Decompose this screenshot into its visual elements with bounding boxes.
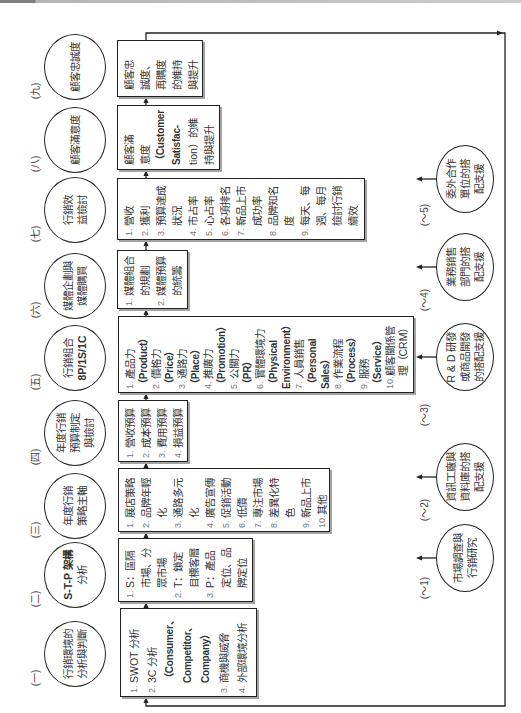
- circle-line: 行銷組合: [61, 338, 75, 378]
- step-9-marker: (九): [29, 80, 43, 102]
- item-text-line: 促銷活動: [218, 478, 234, 518]
- item-number: 4.: [202, 518, 218, 528]
- support-2-circle: 資訊工廠與 資料庫的搭 配支援: [436, 443, 494, 511]
- item-number: 2.: [138, 448, 154, 458]
- circle-line: 行銷研究: [465, 538, 479, 578]
- box-item: 1. 營收: [121, 180, 137, 236]
- arrowhead-icon: [416, 556, 422, 561]
- item-number: 3.: [153, 226, 169, 236]
- item-number: 4.: [233, 683, 251, 693]
- item-text-line: T：鎖定: [170, 548, 186, 588]
- box-item: 8. 作業流程 （Process）: [332, 318, 358, 389]
- item-text-line: SWOT 分析: [125, 629, 143, 683]
- item-text-line: （Service）: [371, 335, 384, 389]
- item-text: 新品上市: [298, 478, 314, 518]
- step-6-box: 1. 媒體組合 的規劃 2. 媒體預算 的統籌: [117, 250, 188, 309]
- item-number: 4.: [185, 226, 201, 236]
- step-7-circle: 行銷效 益檢討: [44, 177, 106, 243]
- circle-line: 市場調查與: [451, 533, 465, 583]
- box-item: 5. 心占率: [201, 180, 217, 236]
- item-text: 費用預算: [154, 408, 170, 448]
- item-number: 3.: [170, 518, 186, 528]
- item-text-line: 每天、每: [297, 186, 313, 226]
- box-text-line: 再購度: [153, 42, 169, 90]
- item-text: SWOT 分析: [125, 629, 143, 683]
- step-2-circle: S-T-P 架構 分析: [44, 542, 106, 608]
- item-text-line: （PR）: [241, 349, 254, 389]
- step-1-marker: (一): [29, 667, 43, 689]
- item-text-line: 實體環境力: [254, 320, 267, 379]
- box-item: 10. 其他: [314, 470, 330, 528]
- box-item: 3. P：產品 定位、品 牌定位: [202, 540, 250, 598]
- item-text-line: 產品力: [124, 333, 137, 379]
- box-item: 8. 品牌知名 度: [265, 180, 297, 236]
- box-text-line: 意度: [137, 107, 153, 165]
- item-text-line: （Consumer、: [161, 616, 179, 683]
- step-1-circle: 行銷環境的 分析與判斷: [44, 621, 106, 687]
- item-text: 品牌知名 度: [265, 186, 297, 226]
- box-item: 7. 人員銷售 （Personal Sales）: [293, 318, 332, 389]
- box-item: 4. 廣告宣傳: [202, 470, 218, 528]
- support-2-marker: (～2): [418, 495, 432, 525]
- item-text-line: 新品上市: [233, 186, 249, 226]
- item-text: 展店策略: [122, 478, 138, 518]
- item-number: 8.: [265, 226, 281, 236]
- item-text-line: （Price）: [163, 346, 176, 389]
- circle-line: 分析: [75, 565, 89, 585]
- box-item: 1. S：區隔 市場、分 眾市場: [122, 540, 170, 598]
- item-text-line: 廣告宣傳: [202, 478, 218, 518]
- item-text-line: 成本預算: [138, 408, 154, 448]
- item-text-line: 媒體組合: [121, 256, 137, 296]
- item-text-line: Competitor、: [179, 616, 197, 683]
- circle-line: 行銷效: [61, 195, 75, 225]
- arrowhead-icon: [416, 355, 422, 360]
- item-text-line: 差異化特: [266, 478, 282, 518]
- item-text-line: 人員銷售: [293, 339, 306, 379]
- arrowhead-icon: [416, 265, 422, 270]
- item-number: 5.: [228, 379, 241, 389]
- item-text-line: 商機與威脅: [215, 633, 233, 683]
- item-text-line: 週、每月: [313, 186, 329, 226]
- item-text-line: 牌定位: [234, 548, 250, 588]
- item-text-line: （Promotion）: [215, 321, 228, 389]
- item-text-line: 定位、品: [218, 548, 234, 588]
- box-item: 7. 專注市場: [250, 470, 266, 528]
- item-text: 公關力 （PR）: [228, 349, 254, 379]
- item-number: 1.: [125, 683, 143, 693]
- item-number: 1.: [122, 448, 138, 458]
- item-text-line: 理（CRM）: [397, 323, 410, 377]
- box-item: 1. 媒體組合 的規劃: [121, 251, 153, 306]
- item-text-line: 市占率: [185, 196, 201, 226]
- arrowhead-icon: [144, 170, 149, 176]
- item-text: 媒體組合 的規劃: [121, 256, 153, 296]
- box-item: 2. 媒體預算 的統籌: [153, 251, 185, 306]
- item-text-line: 目標客層: [186, 548, 202, 588]
- item-text-line: 成功率: [249, 186, 265, 226]
- item-text-line: 度: [281, 186, 297, 226]
- box-text-line: 持與提升: [201, 107, 217, 165]
- box-item: 1. 展店策略: [122, 470, 138, 528]
- item-number: 4.: [202, 379, 215, 389]
- item-text: P：產品 定位、品 牌定位: [202, 548, 250, 588]
- item-text: 通路力 （Place）: [176, 344, 202, 379]
- circle-line: 資料庫的搭: [458, 452, 472, 502]
- circle-line: 顧客忠誠度: [68, 42, 82, 92]
- box-text-line: 的維持: [169, 42, 185, 90]
- item-text-line: 的統籌: [169, 256, 185, 296]
- item-number: 4.: [170, 448, 186, 458]
- item-number: 2.: [170, 588, 186, 598]
- box-item: 2. 成本預算: [138, 402, 154, 458]
- item-text: 品牌年輕 化: [138, 478, 170, 518]
- support-4-circle: 業務銷售 部門的搭 配支援: [436, 233, 494, 301]
- item-number: 3.: [176, 379, 189, 389]
- circle-line: 分析與判斷: [75, 629, 89, 679]
- support-1-circle: 市場調查與 行銷研究: [436, 524, 494, 592]
- item-number: 6.: [254, 379, 267, 389]
- item-text-line: 品牌知名: [265, 186, 281, 226]
- item-text: 新品上市 成功率: [233, 186, 265, 226]
- item-text-line: 各項排名: [217, 186, 233, 226]
- item-text-line: 檢討行銷: [329, 186, 345, 226]
- item-text: 實體環境力 （Physical Environment）: [254, 320, 293, 379]
- circle-line: 年度行銷: [61, 486, 75, 526]
- support-5-marker: (～5): [418, 200, 432, 230]
